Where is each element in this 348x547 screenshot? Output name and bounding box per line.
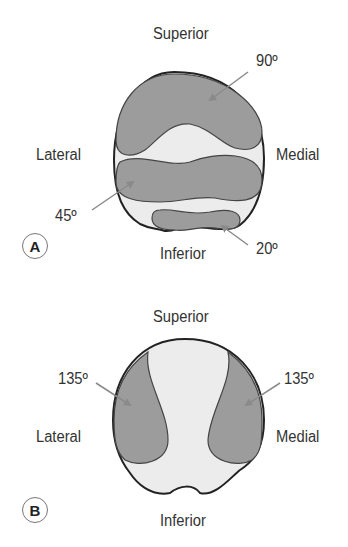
panel-b-medial-label: Medial [276, 428, 319, 446]
panel-a-zone-20 [152, 210, 240, 231]
panel-a-zone-45 [116, 155, 262, 202]
panel-a-medial-label: Medial [276, 146, 319, 164]
panel-a-lateral-label: Lateral [36, 146, 81, 164]
panel-a-angle-20: 20º [256, 240, 278, 258]
panel-a-superior-label: Superior [153, 25, 209, 43]
panel-b-badge: B [22, 497, 48, 523]
panel-b-angle-135-right: 135º [284, 370, 314, 388]
panel-b-inferior-label: Inferior [160, 512, 206, 530]
panel-a-angle-45: 45º [55, 207, 77, 225]
panel-b-angle-135-left: 135º [58, 370, 88, 388]
panel-a-angle-90: 90º [256, 52, 278, 70]
panel-b-lateral-label: Lateral [36, 428, 81, 446]
panel-a-inferior-label: Inferior [160, 245, 206, 263]
panel-b-superior-label: Superior [153, 308, 209, 326]
diagram-drawings [0, 0, 348, 547]
arrow-20 [222, 226, 248, 245]
panel-a-badge: A [22, 233, 48, 259]
